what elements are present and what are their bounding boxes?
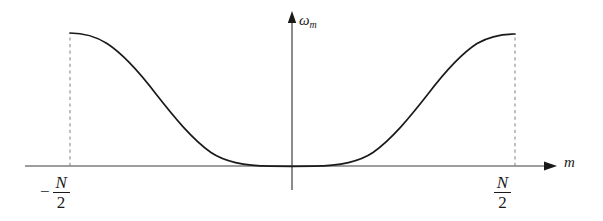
figure-canvas: ωm m − N 2 N 2 [0, 0, 603, 221]
plot-area [0, 0, 603, 221]
x-axis-arrowhead [544, 162, 557, 171]
x-tick-label-left: − N 2 [40, 174, 70, 211]
fraction-denominator: 2 [55, 193, 68, 211]
fraction-n-over-2: N 2 [494, 174, 511, 211]
fraction-numerator: N [53, 174, 68, 192]
minus-sign: − [40, 183, 53, 200]
y-axis-label-base: ω [299, 12, 310, 28]
x-tick-label-right: N 2 [494, 174, 511, 211]
fraction-denominator: 2 [496, 193, 509, 211]
fraction-numerator: N [495, 174, 510, 192]
fraction-n-over-2: N 2 [53, 174, 70, 211]
y-axis-arrowhead [288, 11, 296, 23]
y-axis-label-subscript: m [310, 19, 317, 30]
y-axis-label: ωm [299, 13, 317, 30]
x-axis-label: m [564, 155, 575, 170]
